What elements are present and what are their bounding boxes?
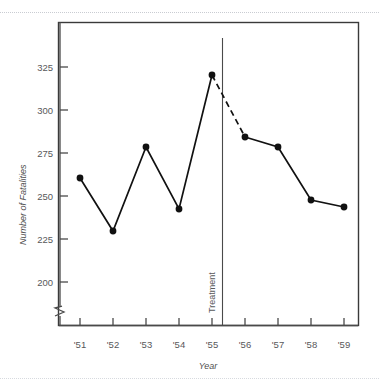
x-tick-label-57: '57 (272, 339, 284, 350)
data-point-59 (341, 204, 348, 211)
data-point-51 (77, 175, 84, 182)
y-tick-label-300: 300 (37, 105, 53, 116)
y-axis-title: Number of Fatalities (18, 164, 28, 245)
data-point-58 (308, 197, 315, 204)
data-point-52 (110, 228, 117, 235)
series-line-post-treatment (245, 137, 344, 207)
x-tick-label-53: '53 (140, 339, 152, 350)
y-tick-label-275: 275 (37, 148, 53, 159)
data-point-56 (242, 134, 249, 141)
treatment-annotation-label: Treatment (207, 272, 217, 313)
y-tick-label-250: 250 (37, 191, 53, 202)
chart-figure: 325 300 275 250 225 200 Number of Fatali… (0, 0, 379, 386)
x-tick-label-59: '59 (338, 339, 350, 350)
x-tick-label-54: '54 (173, 339, 185, 350)
x-tick-label-55: '55 (206, 339, 218, 350)
y-axis-ticks (60, 67, 68, 282)
y-tick-label-325: 325 (37, 62, 53, 73)
y-tick-label-225: 225 (37, 234, 53, 245)
series-line-dashed-transition (212, 75, 245, 137)
x-tick-label-56: '56 (239, 339, 251, 350)
data-point-53 (143, 144, 150, 151)
series-line-pre-treatment (80, 75, 212, 231)
x-axis-ticks (80, 318, 344, 325)
data-point-55 (209, 72, 216, 79)
x-axis-title: Year (199, 361, 219, 371)
y-axis-break-icon (55, 306, 64, 316)
data-point-54 (176, 206, 183, 213)
x-tick-label-51: '51 (74, 339, 86, 350)
x-tick-label-58: '58 (305, 339, 317, 350)
x-tick-label-52: '52 (107, 339, 119, 350)
line-chart-svg: 325 300 275 250 225 200 Number of Fatali… (0, 0, 379, 386)
series-markers (77, 72, 348, 235)
y-tick-label-200: 200 (37, 277, 53, 288)
data-point-57 (275, 144, 282, 151)
